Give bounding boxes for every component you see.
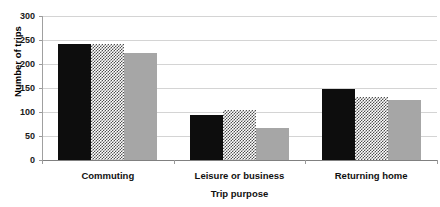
x-category-label: Commuting xyxy=(42,170,174,181)
y-tick-label: 100 xyxy=(8,108,35,117)
x-category-label: Returning home xyxy=(305,170,437,181)
y-tickmark xyxy=(39,40,42,41)
bar xyxy=(223,110,256,160)
y-tickmark xyxy=(39,16,42,17)
y-tickmark xyxy=(39,64,42,65)
bar xyxy=(322,89,355,160)
bar-chart: Number of trips 300250200150100500 Commu… xyxy=(0,0,440,207)
bar xyxy=(124,53,157,160)
bar xyxy=(190,115,223,160)
gridline xyxy=(42,40,437,41)
x-tickmark xyxy=(42,160,43,164)
gridline xyxy=(42,16,437,17)
y-axis-tick-labels: 300250200150100500 xyxy=(8,0,35,207)
y-axis-line xyxy=(42,16,43,160)
x-axis-title: Trip purpose xyxy=(42,188,437,199)
y-tick-label: 300 xyxy=(8,12,35,21)
y-tick-label: 150 xyxy=(8,84,35,93)
y-tickmark xyxy=(39,160,42,161)
y-tick-label: 50 xyxy=(8,132,35,141)
x-tickmark xyxy=(437,160,438,164)
bar xyxy=(58,44,91,160)
plot-area xyxy=(42,16,437,160)
x-axis-line xyxy=(42,160,437,161)
y-tick-label: 250 xyxy=(8,36,35,45)
bar xyxy=(91,44,124,160)
bar xyxy=(355,97,388,160)
y-tickmark xyxy=(39,112,42,113)
x-tickmark xyxy=(305,160,306,164)
chart-title xyxy=(0,0,440,3)
x-category-label: Leisure or business xyxy=(174,170,306,181)
y-tickmark xyxy=(39,88,42,89)
y-tick-label: 0 xyxy=(8,156,35,165)
y-tick-label: 200 xyxy=(8,60,35,69)
y-tickmark xyxy=(39,136,42,137)
bar xyxy=(388,100,421,160)
x-tickmark xyxy=(174,160,175,164)
bar xyxy=(256,128,289,160)
